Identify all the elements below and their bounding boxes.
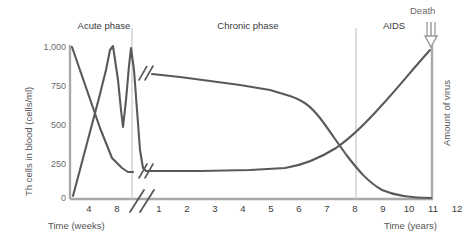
virus-curve-chronic (152, 50, 430, 171)
x-tick-year-6: 6 (292, 204, 306, 214)
y-tick-0: 0 (34, 194, 66, 203)
x-tick-year-10: 10 (401, 204, 417, 214)
axis-break-upper (139, 66, 153, 80)
x-tick-year-7: 7 (320, 204, 334, 214)
phase-label-aids: AIDS (378, 21, 410, 31)
x-tick-year-1: 1 (152, 204, 166, 214)
y-axis-title-right: Amount of virus (442, 80, 452, 146)
x-tick-week-4: 4 (82, 204, 96, 214)
x-axis-title-weeks: Time (weeks) (48, 221, 105, 231)
x-tick-year-4: 4 (236, 204, 250, 214)
th-cell-curve-chronic (152, 74, 431, 198)
th-cell-curve-acute (72, 47, 133, 172)
x-tick-week-8: 8 (110, 204, 124, 214)
hiv-progression-chart: 1,000 750 500 250 0 Th cells in blood (c… (0, 0, 472, 244)
axis-break-xaxis (130, 190, 154, 212)
y-tick-1000: 1,000 (34, 43, 66, 52)
x-tick-year-2: 2 (180, 204, 194, 214)
virus-curve-acute (73, 46, 152, 196)
x-tick-year-8: 8 (348, 204, 362, 214)
annotation-death-label: Death (410, 6, 435, 16)
y-tick-250: 250 (34, 160, 66, 169)
y-axis-title-left: Th cells in blood (cells/ml) (24, 87, 34, 196)
x-tick-year-3: 3 (208, 204, 222, 214)
phase-label-acute: Acute phase (72, 21, 136, 31)
x-tick-year-12: 12 (449, 204, 465, 214)
phase-label-chronic: Chronic phase (212, 21, 284, 31)
x-tick-year-9: 9 (376, 204, 390, 214)
x-tick-year-11: 11 (425, 204, 441, 214)
death-arrow-icon (425, 22, 437, 47)
x-tick-year-5: 5 (264, 204, 278, 214)
y-tick-750: 750 (34, 82, 66, 91)
y-tick-500: 500 (34, 121, 66, 130)
x-axis-title-years: Time (years) (384, 221, 437, 231)
